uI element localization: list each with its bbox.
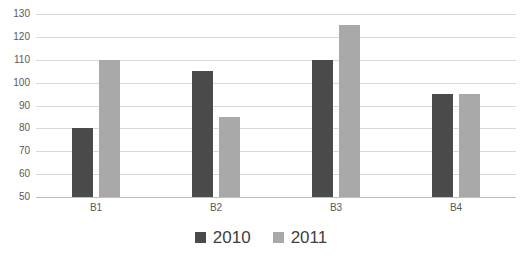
- bar-group-b1: [36, 14, 156, 197]
- legend-label-2011: 2011: [291, 229, 328, 246]
- bar-group-b4: [396, 14, 516, 197]
- x-axis-category-label: B4: [396, 202, 516, 213]
- x-axis-line: [36, 197, 516, 198]
- legend-item-2010: 2010: [195, 229, 251, 246]
- y-axis-tick-label: 60: [0, 169, 30, 179]
- bar-2011-b4: [459, 94, 480, 197]
- bar-group-b2: [156, 14, 276, 197]
- bar-2010-b2: [192, 71, 213, 197]
- bar-2011-b3: [339, 25, 360, 197]
- y-axis-tick-label: 90: [0, 101, 30, 111]
- bar-2011-b1: [99, 60, 120, 197]
- legend-swatch-2010: [195, 232, 206, 243]
- x-axis-category-label: B3: [276, 202, 396, 213]
- bar-2011-b2: [219, 117, 240, 197]
- y-axis-tick-label: 50: [0, 192, 30, 202]
- plot-area: [36, 14, 516, 197]
- bar-2010-b3: [312, 60, 333, 197]
- x-axis-category-label: B1: [36, 202, 156, 213]
- bar-group-b3: [276, 14, 396, 197]
- y-axis-tick-label: 120: [0, 32, 30, 42]
- y-axis-tick-label: 100: [0, 78, 30, 88]
- legend-item-2011: 2011: [273, 229, 328, 246]
- y-axis-tick-label: 80: [0, 123, 30, 133]
- legend-label-2010: 2010: [213, 229, 251, 246]
- x-axis: B1B2B3B4: [36, 202, 516, 213]
- bar-2010-b4: [432, 94, 453, 197]
- y-axis-tick-label: 110: [0, 55, 30, 65]
- bar-2010-b1: [72, 128, 93, 197]
- legend-swatch-2011: [273, 232, 284, 243]
- y-axis-tick-label: 70: [0, 146, 30, 156]
- bars-layer: [36, 14, 516, 197]
- y-axis-tick-label: 130: [0, 9, 30, 19]
- bar-chart: B1B2B3B4 20102011 1301201101009080706050: [0, 0, 522, 258]
- x-axis-category-label: B2: [156, 202, 276, 213]
- legend: 20102011: [0, 229, 522, 246]
